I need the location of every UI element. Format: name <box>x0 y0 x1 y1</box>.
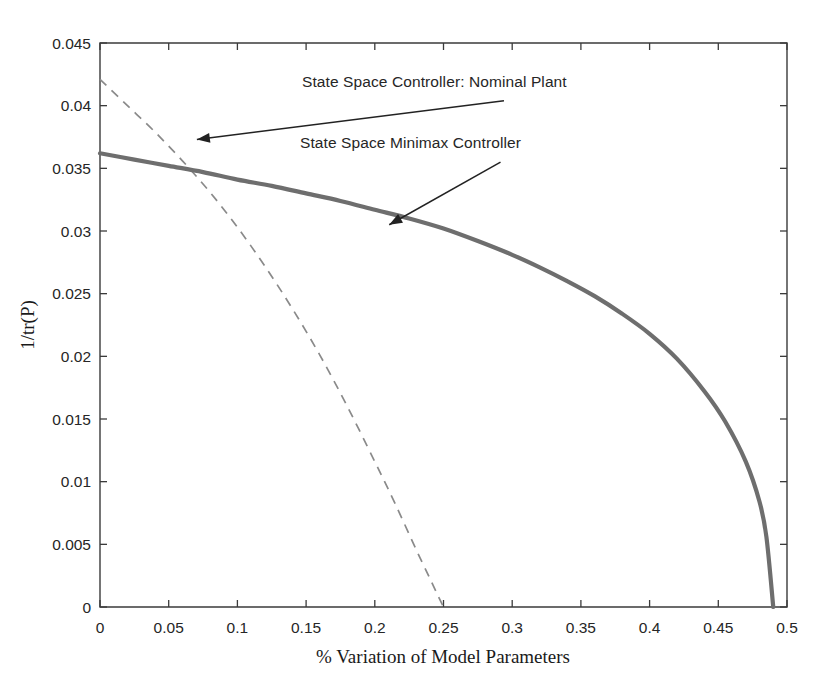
x-tick-label: 0.05 <box>154 619 184 636</box>
y-tick-label: 0.015 <box>52 411 91 428</box>
annotation-arrow-line-minimax <box>389 162 500 225</box>
y-tick-label: 0.03 <box>61 223 91 240</box>
x-axis-tick-labels: 00.050.10.150.20.250.30.350.40.450.5 <box>96 619 798 636</box>
y-axis-ticks <box>100 43 787 607</box>
x-tick-label: 0.15 <box>291 619 321 636</box>
y-tick-label: 0.01 <box>61 473 91 490</box>
x-tick-label: 0.5 <box>776 619 798 636</box>
y-tick-label: 0.025 <box>52 285 91 302</box>
axes-frame <box>100 43 787 607</box>
x-tick-label: 0.2 <box>364 619 386 636</box>
annotation-label-nominal-plant: State Space Controller: Nominal Plant <box>302 73 567 91</box>
x-tick-label: 0.3 <box>501 619 523 636</box>
y-tick-label: 0.04 <box>61 97 92 114</box>
y-tick-label: 0 <box>82 599 91 616</box>
x-tick-label: 0.45 <box>703 619 733 636</box>
annotation-arrows <box>197 101 504 225</box>
y-axis-title: 1/tr(P) <box>17 300 39 350</box>
y-tick-label: 0.02 <box>61 348 91 365</box>
y-axis-tick-labels: 00.0050.010.0150.020.0250.030.0350.040.0… <box>52 35 91 616</box>
x-axis-ticks <box>100 43 787 607</box>
y-tick-label: 0.035 <box>52 160 91 177</box>
x-tick-label: 0 <box>96 619 105 636</box>
x-tick-label: 0.4 <box>639 619 661 636</box>
annotation-label-minimax-controller: State Space Minimax Controller <box>300 134 521 152</box>
annotation-arrow-head-nominal <box>197 133 211 143</box>
series-line-nominal-plant <box>100 79 444 607</box>
y-tick-label: 0.045 <box>52 35 91 52</box>
y-tick-label: 0.005 <box>52 536 91 553</box>
plot-canvas: 00.050.10.150.20.250.30.350.40.450.5 00.… <box>0 0 838 686</box>
x-tick-label: 0.1 <box>227 619 249 636</box>
x-tick-label: 0.25 <box>428 619 458 636</box>
x-axis-title: % Variation of Model Parameters <box>316 646 570 667</box>
x-tick-label: 0.35 <box>566 619 596 636</box>
chart-figure: 00.050.10.150.20.250.30.350.40.450.5 00.… <box>0 0 838 686</box>
series-line-minimax-controller <box>100 153 773 607</box>
